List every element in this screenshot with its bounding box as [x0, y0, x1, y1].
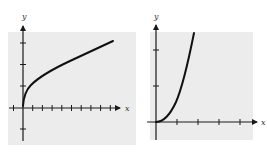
x-axis-label: x — [125, 104, 130, 113]
y-axis-label: y — [21, 12, 27, 21]
graphs-figure: y x y x — [0, 0, 267, 155]
y-axis-label: y — [153, 12, 159, 21]
left-graph: y x — [8, 12, 136, 145]
right-graph: y x — [147, 12, 266, 140]
x-axis-label: x — [261, 118, 266, 127]
plot-background — [150, 32, 253, 140]
